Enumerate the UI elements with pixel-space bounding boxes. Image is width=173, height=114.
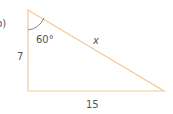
right-triangle: [28, 10, 164, 91]
hypotenuse-label: x: [92, 35, 99, 46]
angle-arc: [28, 18, 44, 30]
part-label: b): [0, 18, 6, 29]
triangle-diagram: b) 60° 7 x 15: [0, 0, 173, 114]
side-bottom-label: 15: [86, 99, 99, 110]
side-left-label: 7: [17, 51, 23, 62]
angle-label: 60°: [36, 34, 54, 45]
